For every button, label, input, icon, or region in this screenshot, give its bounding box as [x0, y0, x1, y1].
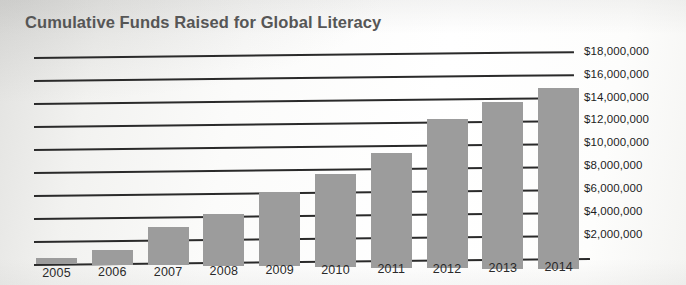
x-tick-label-2005: 2005	[33, 266, 81, 280]
bar-2013	[482, 102, 523, 268]
x-tick-label-2008: 2008	[200, 264, 248, 278]
y-tick-label-10000000: $10,000,000	[584, 136, 649, 148]
x-tick-label-2013: 2013	[479, 261, 527, 275]
x-tick-label-2010: 2010	[312, 263, 360, 277]
y-tick-label-12000000: $12,000,000	[584, 113, 649, 125]
y-tick-label-18000000: $18,000,000	[584, 45, 649, 57]
bar-2007	[148, 227, 189, 265]
bar-2012	[427, 119, 468, 268]
x-tick-label-2009: 2009	[256, 263, 304, 277]
y-tick-label-2000000: $2,000,000	[584, 228, 643, 240]
bar-2009	[259, 192, 300, 267]
bar-2014	[538, 88, 579, 269]
plot-area	[34, 46, 574, 264]
y-tick-label-8000000: $8,000,000	[584, 159, 643, 171]
x-tick-label-2006: 2006	[88, 265, 136, 279]
y-tick-label-16000000: $16,000,000	[584, 68, 649, 80]
page-title: Cumulative Funds Raised for Global Liter…	[25, 13, 381, 32]
chart-page: Cumulative Funds Raised for Global Liter…	[0, 0, 686, 285]
x-tick-label-2012: 2012	[423, 262, 471, 276]
bar-2010	[315, 174, 356, 267]
bar-2008	[203, 214, 244, 266]
gridline	[34, 75, 574, 83]
bar-2005	[36, 258, 77, 264]
bar-2011	[371, 153, 412, 268]
x-tick-label-2014: 2014	[535, 260, 583, 274]
bar-2006	[92, 250, 133, 265]
x-tick-label-2007: 2007	[144, 265, 192, 279]
gridline	[34, 52, 574, 60]
x-tick-label-2011: 2011	[367, 262, 415, 276]
y-tick-label-4000000: $4,000,000	[584, 205, 643, 217]
y-tick-label-14000000: $14,000,000	[584, 91, 649, 103]
y-tick-label-6000000: $6,000,000	[584, 182, 643, 194]
